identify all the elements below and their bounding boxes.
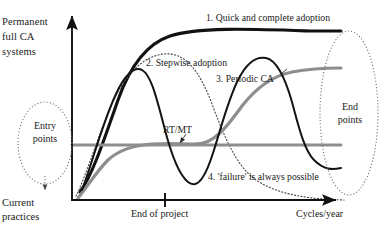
entry-points-label-line1: Entry: [18, 120, 72, 133]
end-points-label-line2: points: [325, 114, 375, 127]
end-points-label-line1: End: [325, 101, 375, 114]
curve-label-failure: 4. 'failure' is always possible: [208, 171, 319, 182]
y-axis-label-line2: full CA: [2, 29, 48, 44]
entry-points-label-line2: points: [18, 133, 72, 146]
y-axis-label-line3: systems: [2, 44, 48, 59]
y-axis-label: Permanent full CA systems: [2, 14, 48, 60]
curve-label-stepwise-adoption: 2. Stepwise adoption: [146, 57, 227, 68]
y-axis-label-line1: Permanent: [2, 14, 48, 29]
rtmt-leader-arrow: [180, 134, 186, 143]
x-axis-tick-label: End of project: [131, 208, 188, 220]
curve-label-quick-adoption: 1. Quick and complete adoption: [206, 12, 330, 23]
x-axis-label: Cycles/year: [296, 208, 343, 220]
diagram-canvas: Permanent full CA systems 1. Quick and c…: [0, 0, 385, 243]
curve-label-periodic-ca: 3. Periodic CA: [216, 73, 274, 84]
current-practices-label: Current practices: [2, 196, 39, 224]
curve-quick-adoption: [80, 29, 341, 192]
current-practices-line2: practices: [2, 210, 39, 224]
current-practices-line1: Current: [2, 196, 39, 210]
rtmt-label: RT/MT: [163, 124, 192, 135]
entry-points-label: Entry points: [18, 120, 72, 145]
end-points-label: End points: [325, 101, 375, 126]
